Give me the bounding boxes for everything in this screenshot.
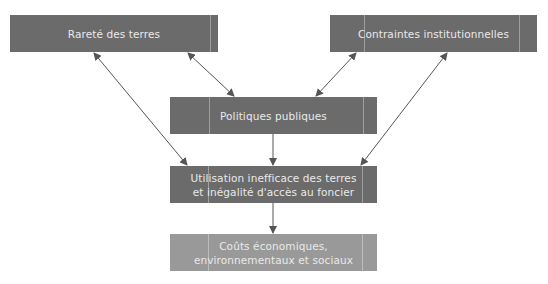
diagram-canvas: Rareté des terres Contraintes institutio… [0, 0, 548, 284]
node-label: Utilisation inefficace des terres et iné… [184, 171, 364, 199]
node-label: Politiques publiques [220, 109, 327, 123]
node-couts-economiques: Coûts économiques, environnementaux et s… [170, 234, 377, 271]
node-contraintes-institutionnelles: Contraintes institutionnelles [330, 15, 537, 52]
arrow-contraintes-politiques [316, 53, 356, 96]
node-label: Contraintes institutionnelles [358, 27, 509, 41]
node-politiques-publiques: Politiques publiques [170, 97, 377, 134]
node-utilisation-inefficace: Utilisation inefficace des terres et iné… [170, 166, 377, 203]
box-divider [519, 15, 520, 52]
node-label: Rareté des terres [68, 27, 160, 41]
node-label: Coûts économiques, environnementaux et s… [189, 239, 359, 267]
box-divider [363, 97, 364, 134]
box-divider [209, 97, 210, 134]
node-rarete-des-terres: Rareté des terres [10, 15, 218, 52]
box-divider [210, 15, 211, 52]
box-divider [362, 234, 363, 271]
arrow-rarete-politiques [188, 53, 234, 96]
